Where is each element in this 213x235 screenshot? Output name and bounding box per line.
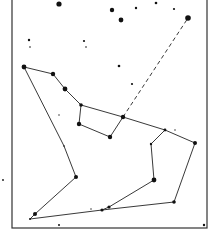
edge-N-O <box>102 202 174 210</box>
star-icon <box>203 224 205 226</box>
edge-L-M <box>109 180 154 207</box>
edge-B-C <box>53 74 65 89</box>
constellation-star-P <box>63 145 65 147</box>
constellation-star-N <box>100 208 103 211</box>
star-icon <box>118 65 121 68</box>
edge-F-K <box>151 130 165 144</box>
star-icon <box>119 18 124 23</box>
star-icon <box>110 8 114 12</box>
star-icon <box>155 2 158 5</box>
star-icon <box>83 40 85 42</box>
constellation-star-B <box>51 72 55 76</box>
edge-I-E <box>110 117 123 137</box>
constellation-star-L <box>152 178 157 183</box>
constellation-star-D <box>79 103 83 107</box>
constellation-star-M <box>107 205 110 208</box>
edge-P-Q <box>64 146 76 177</box>
edge-F-G <box>165 130 195 143</box>
star-icon <box>58 114 59 115</box>
star-icon <box>58 224 60 226</box>
constellation-star-R <box>33 212 37 216</box>
edge-A-B <box>24 67 53 74</box>
constellation-star-Q <box>74 175 78 179</box>
edge-A-P <box>24 67 64 146</box>
star-icon <box>56 1 61 6</box>
constellation-star-F <box>164 129 167 132</box>
edge-S-N <box>30 210 102 219</box>
constellation-lines <box>24 18 195 219</box>
edge-O-G <box>174 143 195 202</box>
star-icon <box>29 46 31 48</box>
edge-E-F <box>123 117 165 130</box>
constellation-star-A <box>22 65 27 70</box>
edge-Q-R <box>35 177 76 214</box>
edge-E-J <box>123 18 188 117</box>
edge-K-L <box>151 144 154 180</box>
star-icon <box>85 46 87 48</box>
constellation-star-C <box>63 87 68 92</box>
constellation-star-O <box>172 200 176 204</box>
star-icon <box>135 7 137 9</box>
star-icon <box>2 179 4 181</box>
edge-C-D <box>65 89 81 105</box>
background-stars <box>2 1 205 226</box>
constellation-star-S <box>29 218 31 220</box>
edge-H-I <box>79 124 110 137</box>
star-icon <box>90 208 91 209</box>
edge-D-H <box>79 105 81 124</box>
star-icon <box>174 129 175 130</box>
star-icon <box>131 83 133 85</box>
constellation-star-H <box>77 122 81 126</box>
edge-D-E <box>81 105 123 117</box>
constellation-star-J <box>185 15 191 21</box>
star-icon <box>173 8 175 10</box>
constellation-stars <box>22 15 197 220</box>
star-icon <box>28 39 30 41</box>
constellation-diagram <box>0 0 213 235</box>
constellation-star-K <box>150 143 152 145</box>
constellation-star-G <box>193 141 197 145</box>
constellation-star-E <box>121 115 125 119</box>
constellation-star-I <box>108 135 112 139</box>
